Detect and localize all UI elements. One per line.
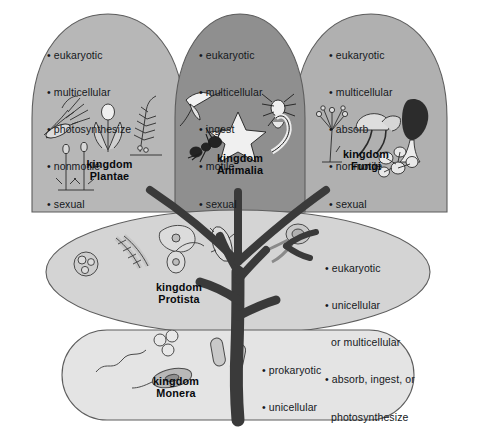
fungi-trait-1: • eukaryotic — [329, 49, 393, 61]
animalia-trait-1: • eukaryotic — [199, 49, 263, 61]
monera-trait-2: • unicellular — [262, 401, 394, 413]
fungi-traits: • eukaryotic • multicellular • absorb • … — [329, 24, 393, 235]
monera-trait-1: • prokaryotic — [262, 364, 394, 376]
plantae-trait-5: • sexual — [47, 198, 131, 210]
animalia-trait-5: • sexual — [199, 198, 263, 210]
animalia-label-line2: Animalia — [192, 164, 288, 176]
kingdom-label-plantae: kingdom Plantae — [62, 158, 157, 182]
protista-trait-2: • unicellular — [325, 299, 415, 311]
plantae-traits: • eukaryotic • multicellular • photosynt… — [47, 24, 131, 235]
plantae-trait-1: • eukaryotic — [47, 49, 131, 61]
protista-trait-1: • eukaryotic — [325, 262, 415, 274]
protista-label-line2: Protista — [133, 293, 225, 305]
monera-label-line1: kingdom — [130, 375, 222, 387]
fungi-trait-3: • absorb — [329, 123, 393, 135]
monera-label-line2: Monera — [130, 387, 222, 399]
plantae-label-line2: Plantae — [62, 170, 157, 182]
animalia-trait-3: • ingest — [199, 123, 263, 135]
fungi-label-line1: kingdom — [324, 148, 408, 160]
kingdom-label-fungi: kingdom Fungi — [324, 148, 408, 172]
kingdom-label-protista: kingdom Protista — [133, 281, 225, 305]
fungi-trait-5: • sexual — [329, 198, 393, 210]
plantae-label-line1: kingdom — [62, 158, 157, 170]
animalia-traits: • eukaryotic • multicellular • ingest • … — [199, 24, 263, 235]
plantae-trait-3: • photosynthesize — [47, 123, 131, 135]
plantae-trait-2: • multicellular — [47, 86, 131, 98]
fungi-label-line2: Fungi — [324, 160, 408, 172]
monera-traits: • prokaryotic • unicellular • absorb or … — [262, 339, 394, 434]
kingdom-label-monera: kingdom Monera — [130, 375, 222, 399]
protista-label-line1: kingdom — [133, 281, 225, 293]
animalia-trait-2: • multicellular — [199, 86, 263, 98]
fungi-trait-2: • multicellular — [329, 86, 393, 98]
kingdom-label-animalia: kingdom Animalia — [192, 152, 288, 176]
volvox-colony-icon — [74, 252, 98, 276]
animalia-label-line1: kingdom — [192, 152, 288, 164]
diagram-canvas: • eukaryotic • multicellular • photosynt… — [0, 0, 477, 434]
